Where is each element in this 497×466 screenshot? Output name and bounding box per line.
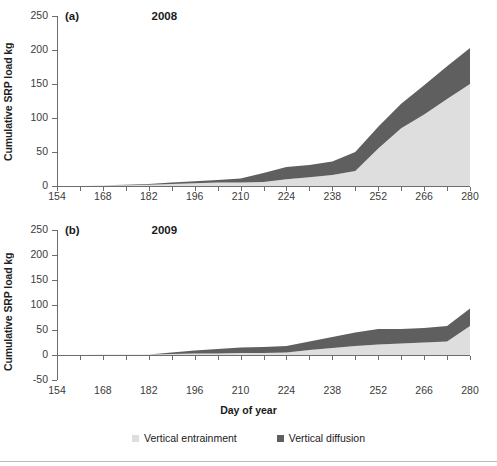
x-tick-label: 238 — [312, 190, 352, 202]
x-tick-mark — [126, 356, 127, 360]
x-tick-label: 182 — [129, 190, 169, 202]
x-tick-mark — [264, 187, 265, 191]
x-tick-mark — [332, 187, 333, 191]
footer-divider — [0, 461, 497, 462]
x-axis-title: Day of year — [0, 404, 497, 416]
x-tick-mark — [149, 187, 150, 191]
x-tick-mark — [172, 356, 173, 360]
x-tick-label: 182 — [129, 384, 169, 396]
x-tick-label: 266 — [404, 190, 444, 202]
x-tick-label: 168 — [83, 384, 123, 396]
x-tick-label: 252 — [358, 384, 398, 396]
x-tick-mark — [378, 187, 379, 191]
x-tick-label: 168 — [83, 190, 123, 202]
x-tick-mark — [447, 187, 448, 191]
x-tick-mark — [355, 356, 356, 360]
x-tick-mark — [57, 187, 58, 191]
x-tick-mark — [424, 356, 425, 360]
x-tick-label: 196 — [175, 384, 215, 396]
x-tick-mark — [309, 187, 310, 191]
legend-swatch-icon — [277, 435, 284, 442]
x-tick-mark — [80, 356, 81, 360]
x-tick-mark — [264, 356, 265, 360]
x-tick-label: 224 — [266, 384, 306, 396]
x-tick-mark — [241, 356, 242, 360]
x-tick-mark — [149, 356, 150, 360]
x-tick-mark — [470, 187, 471, 191]
panel-2009: Cumulative SRP load kg -5005010015020025… — [0, 218, 497, 418]
x-tick-mark — [309, 356, 310, 360]
legend-swatch-icon — [132, 435, 139, 442]
x-tick-label: 238 — [312, 384, 352, 396]
x-tick-mark — [126, 187, 127, 191]
x-tick-mark — [195, 356, 196, 360]
x-tick-mark — [286, 356, 287, 360]
x-tick-mark — [447, 356, 448, 360]
chart-legend: Vertical entrainmentVertical diffusion — [0, 432, 497, 444]
x-tick-mark — [80, 187, 81, 191]
x-tick-mark — [286, 187, 287, 191]
legend-item[interactable]: Vertical diffusion — [277, 432, 365, 444]
x-tick-mark — [355, 187, 356, 191]
stacked-area-svg — [0, 0, 497, 194]
x-tick-label: 280 — [450, 190, 490, 202]
legend-label: Vertical entrainment — [144, 432, 237, 444]
y-axis-line — [57, 16, 58, 186]
legend-item[interactable]: Vertical entrainment — [132, 432, 237, 444]
x-tick-label: 210 — [221, 384, 261, 396]
x-tick-label: 252 — [358, 190, 398, 202]
x-tick-mark — [378, 356, 379, 360]
x-tick-mark — [470, 356, 471, 360]
figure-root: Cumulative SRP load kg 050100150200250 (… — [0, 0, 497, 466]
x-tick-label: 210 — [221, 190, 261, 202]
panel-2008: Cumulative SRP load kg 050100150200250 (… — [0, 0, 497, 212]
x-tick-mark — [218, 187, 219, 191]
x-tick-label: 196 — [175, 190, 215, 202]
x-tick-label: 280 — [450, 384, 490, 396]
x-tick-label: 154 — [37, 384, 77, 396]
x-tick-mark — [57, 356, 58, 360]
x-tick-mark — [195, 187, 196, 191]
x-tick-mark — [218, 356, 219, 360]
legend-label: Vertical diffusion — [289, 432, 365, 444]
x-tick-label: 154 — [37, 190, 77, 202]
x-tick-label: 266 — [404, 384, 444, 396]
x-tick-mark — [103, 356, 104, 360]
x-tick-mark — [424, 187, 425, 191]
x-tick-mark — [103, 187, 104, 191]
x-tick-mark — [401, 356, 402, 360]
x-tick-mark — [401, 187, 402, 191]
stacked-area-svg — [0, 218, 497, 388]
y-tick-mark — [52, 380, 57, 381]
x-tick-mark — [172, 187, 173, 191]
x-tick-mark — [241, 187, 242, 191]
x-tick-label: 224 — [266, 190, 306, 202]
x-tick-mark — [332, 356, 333, 360]
